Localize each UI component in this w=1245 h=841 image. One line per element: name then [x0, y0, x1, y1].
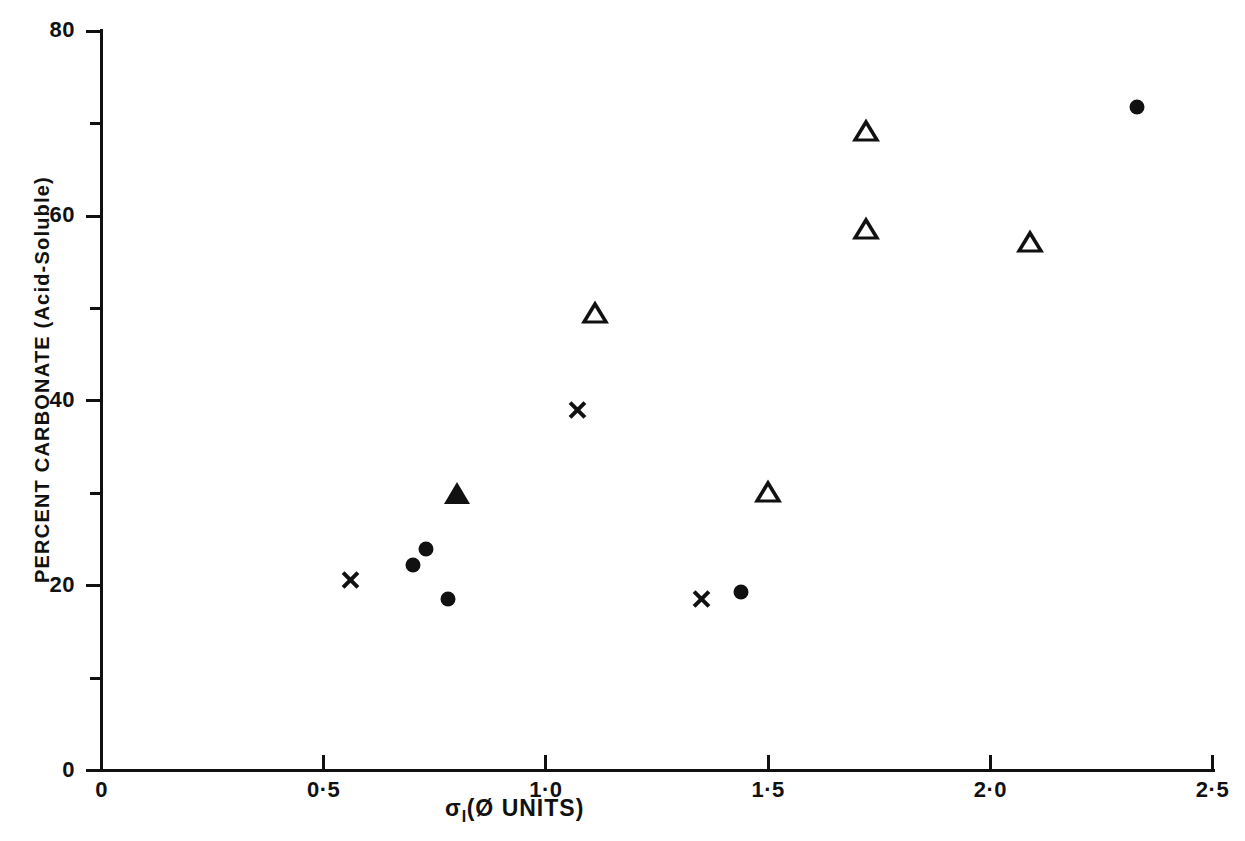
x-axis-line	[100, 769, 1215, 772]
data-point-open-triangle	[754, 480, 782, 503]
data-point-filled-circle	[734, 585, 749, 600]
data-point-filled-circle	[405, 558, 420, 573]
x-tick-1.5	[767, 755, 770, 771]
data-point-open-triangle	[581, 301, 609, 324]
data-point-filled-circle	[1129, 100, 1144, 115]
y-axis-title: PERCENT CARBONATE (Acid-Soluble)	[31, 120, 54, 640]
y-tick-10	[90, 677, 102, 680]
x-tick-label-2: 2·0	[950, 777, 1030, 803]
x-tick-label-1: 1·0	[506, 777, 586, 803]
y-tick-label-60: 60	[5, 202, 75, 228]
x-axis-sigma: σ	[445, 795, 462, 821]
y-tick-label-20: 20	[5, 572, 75, 598]
data-point-filled-circle	[441, 591, 456, 606]
x-tick-label-0: 0	[62, 777, 142, 803]
y-tick-80	[86, 30, 102, 33]
data-point-open-triangle	[852, 217, 880, 240]
y-tick-30	[90, 492, 102, 495]
y-tick-60	[86, 215, 102, 218]
scatter-plot-figure: PERCENT CARBONATE (Acid-Soluble) σI(Ø UN…	[0, 0, 1245, 841]
y-tick-20	[86, 584, 102, 587]
data-point-filled-circle	[418, 541, 433, 556]
x-tick-label-0.5: 0·5	[284, 777, 364, 803]
data-point-cross	[567, 400, 587, 420]
y-tick-40	[86, 399, 102, 402]
data-point-cross	[340, 570, 360, 590]
y-tick-50	[90, 307, 102, 310]
x-tick-0.5	[322, 755, 325, 771]
data-point-filled-triangle	[444, 482, 470, 504]
data-point-open-triangle	[852, 119, 880, 142]
x-tick-2.5	[1211, 755, 1214, 771]
y-tick-label-40: 40	[5, 387, 75, 413]
y-tick-label-80: 80	[5, 17, 75, 43]
x-tick-2	[989, 755, 992, 771]
data-point-cross	[691, 589, 711, 609]
x-tick-label-2.5: 2·5	[1173, 777, 1245, 803]
data-point-open-triangle	[1016, 230, 1044, 253]
x-tick-label-1.5: 1·5	[728, 777, 808, 803]
y-tick-70	[90, 122, 102, 125]
x-tick-1	[544, 755, 547, 771]
x-tick-0	[100, 755, 103, 771]
